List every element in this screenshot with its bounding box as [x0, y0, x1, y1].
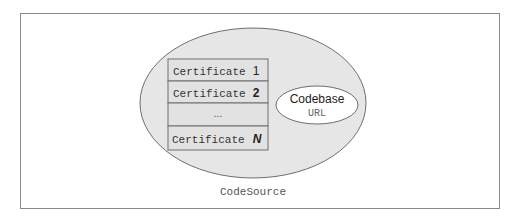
codebase-ellipse-group: Codebase URL: [276, 86, 358, 124]
codesource-diagram: Certificate 1 Certificate 2 ... Certific…: [0, 0, 519, 218]
svg-text:URL: URL: [308, 108, 326, 119]
svg-text:1: 1: [253, 64, 260, 78]
ellipsis: ...: [214, 108, 222, 119]
codesource-label: CodeSource: [220, 186, 286, 198]
svg-text:CodeSource: CodeSource: [220, 186, 286, 198]
svg-text:...: ...: [214, 108, 222, 119]
certificate-index: 2: [253, 86, 260, 100]
codebase-subtitle: URL: [308, 108, 326, 119]
svg-text:Certificate: Certificate: [172, 134, 245, 146]
certificate-index: 1: [253, 64, 260, 78]
certificate-label: Certificate: [173, 66, 246, 78]
svg-text:Certificate: Certificate: [173, 88, 246, 100]
certificate-stack: Certificate 1 Certificate 2 ... Certific…: [168, 59, 268, 150]
certificate-label: Certificate: [173, 88, 246, 100]
certificate-index: N: [253, 132, 262, 146]
svg-text:Codebase: Codebase: [290, 92, 345, 106]
codebase-title: Codebase: [290, 92, 345, 106]
svg-text:2: 2: [253, 86, 260, 100]
svg-text:N: N: [253, 132, 262, 146]
certificate-label: Certificate: [172, 134, 245, 146]
svg-text:Certificate: Certificate: [173, 66, 246, 78]
